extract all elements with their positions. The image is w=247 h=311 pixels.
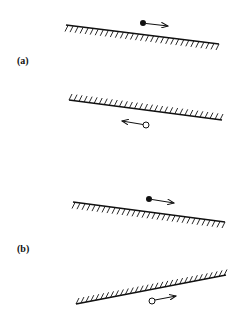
panel-b-filled-particle-arrow: [146, 196, 174, 203]
panel-a-lower-wall: [69, 94, 223, 120]
panel-b-upper-wall: [72, 202, 225, 228]
panel-a-upper-wall: [65, 25, 219, 50]
panel-a-filled-particle-arrow: [140, 20, 168, 26]
diagram-canvas: [0, 0, 247, 311]
panel-b-open-particle-arrow: [149, 296, 176, 304]
panel-a-open-particle-arrow: [122, 121, 149, 128]
